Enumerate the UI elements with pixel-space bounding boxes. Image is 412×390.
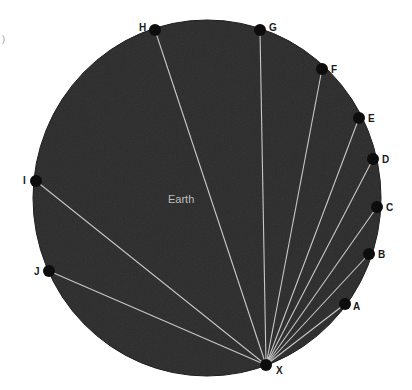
- point-d-dot: [367, 153, 379, 165]
- point-g-dot: [254, 24, 266, 36]
- point-e-dot: [353, 112, 365, 124]
- point-a-label: A: [353, 301, 360, 312]
- point-j-label: J: [34, 266, 40, 277]
- point-i-label: I: [23, 175, 26, 186]
- point-f-label: F: [331, 64, 337, 75]
- point-h-dot: [149, 24, 161, 36]
- point-h-label: H: [139, 22, 146, 33]
- earth-ray-diagram: Earth ABCDEFGHIJX: [0, 0, 412, 390]
- earth-label: Earth: [168, 193, 194, 205]
- point-b-dot: [363, 248, 375, 260]
- point-x-dot: [260, 359, 272, 371]
- point-i-dot: [30, 175, 42, 187]
- point-b-label: B: [378, 249, 385, 260]
- point-c-label: C: [386, 202, 393, 213]
- point-a-dot: [339, 298, 351, 310]
- point-g-label: G: [269, 22, 277, 33]
- point-e-label: E: [368, 113, 375, 124]
- point-d-label: D: [382, 154, 389, 165]
- point-f-dot: [316, 63, 328, 75]
- point-x-label: X: [276, 365, 283, 376]
- point-c-dot: [371, 201, 383, 213]
- point-j-dot: [43, 265, 55, 277]
